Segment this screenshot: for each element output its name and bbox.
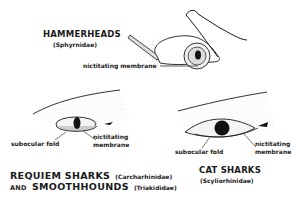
catsharks-title: CAT SHARKS bbox=[199, 165, 261, 175]
requiem-membrane-label: membrane bbox=[93, 141, 129, 148]
catshark-nictitating-label: nictitating bbox=[255, 140, 290, 147]
requiem-title-line2: AND SMOOTHHOUNDS (Triakididae) bbox=[10, 175, 177, 194]
smoothhounds-title: SMOOTHHOUNDS bbox=[32, 181, 129, 192]
catshark-subocular-label: subocular fold bbox=[175, 148, 223, 155]
hammerheads-nictitating-label: nictitating membrane bbox=[83, 62, 157, 69]
hammerhead-eye-illustration bbox=[128, 10, 247, 69]
requiem-nictitating-label: nictitating bbox=[93, 133, 128, 140]
smoothhounds-family: (Triakididae) bbox=[134, 184, 177, 191]
hammerheads-title: HAMMERHEADS bbox=[43, 29, 121, 39]
hammerheads-family: (Sphyrnidae) bbox=[53, 41, 97, 48]
and-label: AND bbox=[10, 184, 27, 192]
requiem-subocular-label: subocular fold bbox=[11, 140, 59, 147]
catsharks-family: (Scyliorhinidae) bbox=[200, 177, 254, 184]
catshark-membrane-label: membrane bbox=[255, 148, 291, 155]
